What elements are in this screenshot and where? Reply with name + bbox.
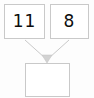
connector-left-to-result [25,40,45,58]
diagram-canvas: 11 8 [0,0,94,98]
connector-right-to-result [49,40,69,58]
operand-left-box[interactable]: 11 [4,4,45,39]
operand-left-value: 11 [13,13,37,30]
result-box[interactable] [25,63,70,97]
operand-right-box[interactable]: 8 [50,4,89,39]
arrowhead-icon [42,55,52,63]
operand-right-value: 8 [64,13,76,30]
